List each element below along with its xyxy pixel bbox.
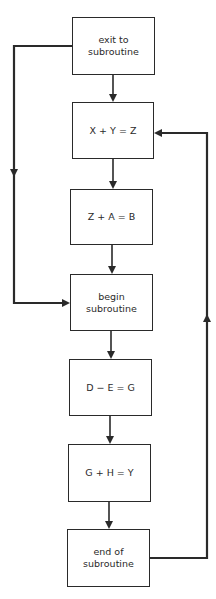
box-z-plus-a: Z + A = B (70, 189, 153, 245)
box-x-plus-y: X + Y = Z (72, 102, 154, 159)
box-label: exit to subroutine (88, 34, 139, 58)
flowchart: exit to subroutine X + Y = Z Z + A = B b… (0, 0, 216, 599)
box-label: Z + A = B (88, 211, 136, 223)
box-d-minus-e: D − E = G (69, 359, 152, 416)
box-exit-to-subroutine: exit to subroutine (72, 17, 155, 75)
box-label: G + H = Y (85, 467, 133, 479)
box-begin-subroutine: begin subroutine (70, 274, 153, 331)
box-label: begin subroutine (86, 291, 137, 315)
box-g-plus-h: G + H = Y (68, 444, 151, 502)
box-label: D − E = G (86, 382, 135, 394)
box-label: end of subroutine (83, 546, 134, 570)
box-label: X + Y = Z (90, 125, 137, 137)
box-end-of-subroutine: end of subroutine (67, 529, 150, 587)
